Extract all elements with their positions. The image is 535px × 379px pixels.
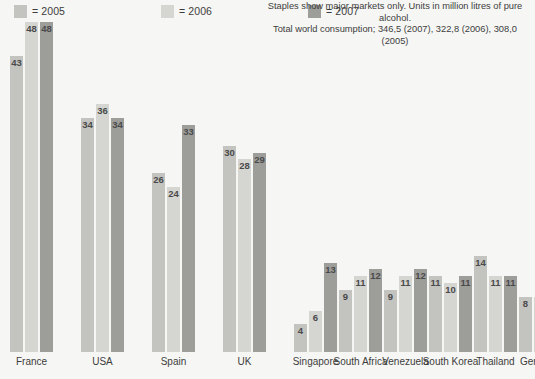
whisky-consumption-chart: = 2005 = 2006 = 2007 Staples show major … (0, 0, 535, 379)
bar-value-label: 4 (294, 326, 307, 336)
bar-germany-2005: 8 (519, 297, 532, 352)
bar-group-uk: 302829 (223, 18, 266, 352)
bar-singapore-2007: 13 (324, 263, 337, 352)
bar-france-2006: 48 (25, 22, 38, 352)
bar-south-africa-2006: 11 (354, 276, 367, 352)
bar-value-label: 12 (369, 271, 382, 281)
bar-value-label: 36 (96, 106, 109, 116)
bar-singapore-2005: 4 (294, 324, 307, 352)
bar-rect: 26 (152, 173, 165, 352)
bar-singapore-2006: 6 (309, 311, 322, 352)
bar-rect: 29 (253, 153, 266, 352)
bar-value-label: 30 (223, 148, 236, 158)
bar-rect: 11 (399, 276, 412, 352)
bar-value-label: 9 (384, 292, 397, 302)
legend-swatch-2006 (161, 5, 174, 18)
bar-venezuela-2005: 9 (384, 290, 397, 352)
bar-uk-2007: 29 (253, 153, 266, 352)
bar-thailand-2006: 11 (489, 276, 502, 352)
bar-value-label: 28 (238, 161, 251, 171)
bar-uk-2006: 28 (238, 159, 251, 352)
bar-spain-2005: 26 (152, 173, 165, 352)
bar-group-france: 434848 (10, 18, 53, 352)
bar-south-korea-2007: 11 (459, 276, 472, 352)
bar-rect: 48 (40, 22, 53, 352)
bar-rect: 13 (324, 263, 337, 352)
bar-rect: 9 (339, 290, 352, 352)
bar-rect: 14 (474, 256, 487, 352)
bar-value-label: 10 (444, 285, 457, 295)
bar-value-label: 11 (489, 278, 502, 288)
x-axis-labels: FranceUSASpainUKSingaporeSouth AfricaVen… (7, 356, 504, 376)
bar-group-venezuela: 91112 (384, 18, 427, 352)
legend-label-2005: = 2005 (32, 5, 65, 17)
bar-rect: 8 (519, 297, 532, 352)
bar-group-germany: 8811 (519, 18, 535, 352)
bar-value-label: 48 (40, 24, 53, 34)
bar-rect: 9 (384, 290, 397, 352)
bar-thailand-2005: 14 (474, 256, 487, 352)
bar-value-label: 11 (459, 278, 472, 288)
bar-rect: 33 (182, 125, 195, 352)
bar-value-label: 9 (339, 292, 352, 302)
bar-value-label: 13 (324, 265, 337, 275)
bar-group-south-africa: 91112 (339, 18, 382, 352)
bar-value-label: 26 (152, 175, 165, 185)
bar-rect: 34 (81, 118, 94, 352)
bar-rect: 28 (238, 159, 251, 352)
bar-south-korea-2005: 11 (429, 276, 442, 352)
bar-rect: 36 (96, 104, 109, 352)
bar-rect: 11 (504, 276, 517, 352)
bar-rect: 10 (444, 283, 457, 352)
bar-rect: 11 (459, 276, 472, 352)
bar-value-label: 24 (167, 189, 180, 199)
bar-value-label: 34 (81, 120, 94, 130)
x-axis-label-germany: Germany (496, 356, 535, 367)
legend-label-2006: = 2006 (179, 5, 212, 17)
bar-value-label: 6 (309, 313, 322, 323)
bar-value-label: 33 (182, 127, 195, 137)
bar-thailand-2007: 11 (504, 276, 517, 352)
chart-plot-area: 4348483436342624333028294613911129111211… (7, 18, 504, 352)
bar-rect: 43 (10, 56, 23, 352)
bar-rect: 48 (25, 22, 38, 352)
bar-value-label: 8 (519, 299, 532, 309)
legend-item-2005: = 2005 (14, 5, 65, 18)
bar-value-label: 11 (354, 278, 367, 288)
bar-value-label: 11 (399, 278, 412, 288)
bar-venezuela-2006: 11 (399, 276, 412, 352)
bar-value-label: 12 (414, 271, 427, 281)
bar-spain-2006: 24 (167, 187, 180, 352)
bar-value-label: 34 (111, 120, 124, 130)
bar-spain-2007: 33 (182, 125, 195, 352)
bar-rect: 12 (369, 269, 382, 352)
bar-usa-2005: 34 (81, 118, 94, 352)
bar-value-label: 43 (10, 58, 23, 68)
bar-south-africa-2005: 9 (339, 290, 352, 352)
bar-group-thailand: 141111 (474, 18, 517, 352)
bar-usa-2006: 36 (96, 104, 109, 352)
legend-swatch-2005 (14, 5, 27, 18)
bar-value-label: 14 (474, 258, 487, 268)
bar-value-label: 11 (429, 278, 442, 288)
bar-france-2007: 48 (40, 22, 53, 352)
bar-venezuela-2007: 12 (414, 269, 427, 352)
bar-value-label: 48 (25, 24, 38, 34)
bar-rect: 11 (489, 276, 502, 352)
bar-rect: 4 (294, 324, 307, 352)
bar-group-spain: 262433 (152, 18, 195, 352)
bar-rect: 6 (309, 311, 322, 352)
bar-france-2005: 43 (10, 56, 23, 352)
bar-group-south-korea: 111011 (429, 18, 472, 352)
bar-south-africa-2007: 12 (369, 269, 382, 352)
bar-group-usa: 343634 (81, 18, 124, 352)
bar-uk-2005: 30 (223, 146, 236, 352)
bar-rect: 12 (414, 269, 427, 352)
bar-group-singapore: 4613 (294, 18, 337, 352)
bar-value-label: 11 (504, 278, 517, 288)
bar-rect: 11 (429, 276, 442, 352)
bar-rect: 11 (354, 276, 367, 352)
bar-rect: 30 (223, 146, 236, 352)
bar-south-korea-2006: 10 (444, 283, 457, 352)
bar-rect: 34 (111, 118, 124, 352)
